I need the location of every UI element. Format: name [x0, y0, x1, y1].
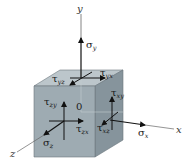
- y-axis-label: y: [76, 3, 83, 14]
- stress-element-diagram: y σy τyz τyx 0 τzy τzx σz z τxy τxz σx x: [0, 0, 190, 167]
- z-axis-label: z: [9, 148, 16, 159]
- sigma-y-label: σy: [86, 39, 97, 52]
- sigma-x-label: σx: [138, 127, 149, 140]
- x-axis-label: x: [176, 124, 182, 135]
- x-axis: [145, 125, 174, 129]
- origin-label: 0: [76, 101, 82, 112]
